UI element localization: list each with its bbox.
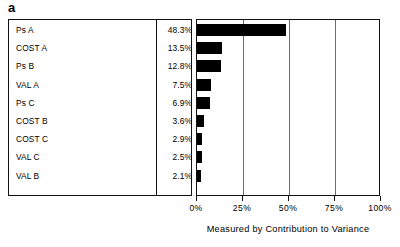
x-axis-tick <box>288 196 289 201</box>
pareto-table: Ps A48.3%COST A13.5%Ps B12.8%VAL A7.5%Ps… <box>8 19 192 196</box>
x-axis-tick-label: 25% <box>220 202 264 214</box>
table-row: VAL B2.1% <box>9 167 191 185</box>
bar <box>197 42 222 54</box>
row-value: 12.8% <box>156 57 192 75</box>
bar-row <box>197 148 379 166</box>
bar-row <box>197 39 379 57</box>
bar <box>197 115 204 127</box>
bar <box>197 79 211 91</box>
row-value: 2.5% <box>156 148 192 166</box>
x-axis-tick-label: 75% <box>312 202 356 214</box>
bar-row <box>197 76 379 94</box>
row-value: 48.3% <box>156 21 192 39</box>
table-row: Ps A48.3% <box>9 21 191 39</box>
bar <box>197 24 286 36</box>
x-axis-tick <box>242 196 243 201</box>
row-value: 2.9% <box>156 130 192 148</box>
bar-row <box>197 94 379 112</box>
plot-area <box>196 19 380 196</box>
row-value: 2.1% <box>156 167 192 185</box>
row-label: VAL C <box>16 148 40 166</box>
bar <box>197 170 201 182</box>
table-row: COST C2.9% <box>9 130 191 148</box>
bar <box>197 151 202 163</box>
bar <box>197 97 210 109</box>
x-axis-title: Measured by Contribution to Variance <box>196 223 380 236</box>
row-label: COST C <box>16 130 48 148</box>
row-label: COST B <box>16 112 48 130</box>
row-value: 7.5% <box>156 76 192 94</box>
bar-row <box>197 57 379 75</box>
bar <box>197 133 202 145</box>
table-row: VAL A7.5% <box>9 76 191 94</box>
x-axis-tick-label: 50% <box>266 202 310 214</box>
bar-row <box>197 21 379 39</box>
table-row: COST A13.5% <box>9 39 191 57</box>
x-axis-tick-label: 100% <box>358 202 400 214</box>
table-row: COST B3.6% <box>9 112 191 130</box>
row-label: VAL B <box>16 167 39 185</box>
panel-letter: a <box>8 0 15 16</box>
row-label: Ps B <box>16 57 34 75</box>
row-label: COST A <box>16 39 47 57</box>
row-label: Ps A <box>16 21 34 39</box>
table-row: Ps C6.9% <box>9 94 191 112</box>
bar-row <box>197 130 379 148</box>
row-value: 3.6% <box>156 112 192 130</box>
x-axis-tick <box>380 196 381 201</box>
row-label: VAL A <box>16 76 39 94</box>
row-label: Ps C <box>16 94 35 112</box>
bar-row <box>197 112 379 130</box>
x-axis-tick-label: 0% <box>174 202 218 214</box>
bar <box>197 60 221 72</box>
bar-row <box>197 167 379 185</box>
x-axis-tick <box>334 196 335 201</box>
x-axis-tick <box>196 196 197 201</box>
table-row: VAL C2.5% <box>9 148 191 166</box>
row-value: 13.5% <box>156 39 192 57</box>
table-row: Ps B12.8% <box>9 57 191 75</box>
row-value: 6.9% <box>156 94 192 112</box>
